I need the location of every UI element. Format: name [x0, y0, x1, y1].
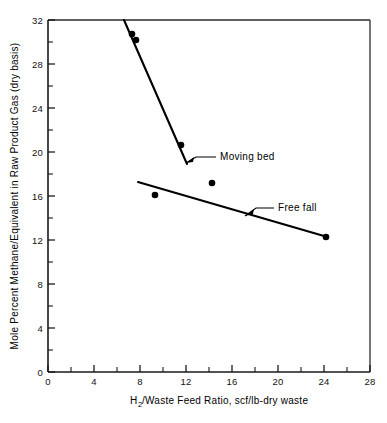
- figure-container: 0 4 8 12 16 20 24 28 32: [0, 0, 387, 423]
- y-tick-label: 16: [32, 191, 43, 202]
- data-point: [209, 180, 216, 187]
- data-point: [152, 192, 159, 199]
- y-tick-label: 32: [32, 15, 43, 26]
- moving-bed-arrowhead-icon: [186, 157, 194, 163]
- y-tick-label: 24: [32, 103, 43, 114]
- x-axis-tick-labels: 0 4 8 12 16 20 24 28: [45, 376, 375, 387]
- y-axis-title: Mole Percent Methane/Equivalent in Raw P…: [9, 43, 20, 350]
- y-tick-label: 0: [38, 367, 43, 378]
- series-moving-bed: [124, 20, 187, 164]
- x-axis-title: H 2 /Waste Feed Ratio, scf/lb-dry waste: [130, 395, 308, 409]
- x-tick-label: 8: [137, 376, 142, 387]
- y-tick-label: 28: [32, 59, 43, 70]
- annotation-moving-bed: Moving bed: [186, 151, 275, 163]
- y-tick-label: 12: [32, 235, 43, 246]
- x-axis-title-part2: /Waste Feed Ratio, scf/lb-dry waste: [142, 395, 308, 406]
- x-tick-label: 12: [181, 376, 192, 387]
- data-point: [178, 142, 185, 149]
- x-tick-label: 28: [365, 376, 376, 387]
- x-tick-label: 24: [319, 376, 330, 387]
- annotation-label-free-fall: Free fall: [278, 202, 317, 213]
- x-tick-label: 0: [45, 376, 50, 387]
- y-tick-label: 8: [38, 279, 43, 290]
- y-tick-label: 4: [38, 323, 43, 334]
- x-tick-label: 4: [91, 376, 96, 387]
- x-axis-title-part1: H: [130, 395, 137, 406]
- data-point: [133, 37, 140, 44]
- data-point: [129, 31, 136, 38]
- y-axis-tick-labels: 0 4 8 12 16 20 24 28 32: [32, 15, 43, 378]
- annotation-free-fall: Free fall: [245, 202, 317, 216]
- data-point: [323, 234, 330, 241]
- y-tick-label: 20: [32, 147, 43, 158]
- plot-frame: [48, 20, 370, 372]
- chart-svg: 0 4 8 12 16 20 24 28 32: [0, 0, 387, 423]
- y-axis-major-ticks: [48, 20, 55, 372]
- x-tick-label: 20: [273, 376, 284, 387]
- x-tick-label: 16: [227, 376, 238, 387]
- y-axis-title-text: Mole Percent Methane/Equivalent in Raw P…: [9, 43, 20, 350]
- annotation-label-moving-bed: Moving bed: [220, 151, 275, 162]
